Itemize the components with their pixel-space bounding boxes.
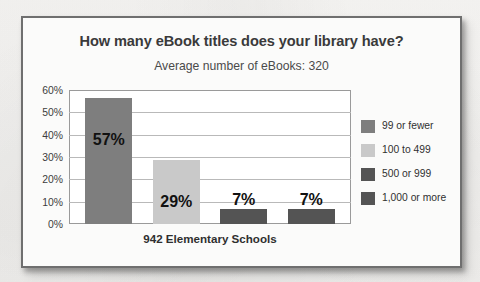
legend-swatch-icon <box>361 168 375 181</box>
y-axis-tick-label: 50% <box>42 107 63 118</box>
y-axis-tick-label: 10% <box>42 196 63 207</box>
y-axis: 60%50%40%30%20%10%0% <box>23 90 67 224</box>
legend-item[interactable]: 500 or 999 <box>361 168 461 181</box>
y-axis-tick-label: 40% <box>42 129 63 140</box>
legend-swatch-icon <box>361 192 375 205</box>
chart-subtitle: Average number of eBooks: 320 <box>23 59 460 73</box>
bar[interactable]: 29% <box>153 160 200 224</box>
chart-card: How many eBook titles does your library … <box>21 16 462 268</box>
legend-item-label: 99 or fewer <box>382 121 434 131</box>
bar-value-label: 57% <box>93 132 125 148</box>
legend-swatch-icon <box>361 144 375 157</box>
x-axis-label: 942 Elementary Schools <box>69 232 351 245</box>
legend-swatch-icon <box>361 120 375 133</box>
y-axis-tick-label: 60% <box>42 85 63 96</box>
y-axis-tick-label: 30% <box>42 152 63 163</box>
plot-area: 57%29%7%7% <box>69 90 351 224</box>
bar-value-label: 7% <box>300 192 323 208</box>
legend-item-label: 1,000 or more <box>382 193 446 203</box>
y-axis-tick-label: 20% <box>42 174 63 185</box>
bar[interactable]: 7% <box>288 209 335 224</box>
bar[interactable]: 57% <box>85 98 132 224</box>
chart-legend: 99 or fewer100 to 499500 or 9991,000 or … <box>361 120 461 216</box>
legend-item[interactable]: 100 to 499 <box>361 144 461 157</box>
bar-slot: 7% <box>210 90 278 224</box>
legend-item-label: 100 to 499 <box>382 145 431 155</box>
legend-item[interactable]: 1,000 or more <box>361 192 461 205</box>
bar-value-label: 29% <box>160 194 192 210</box>
bar-slot: 7% <box>278 90 346 224</box>
bar-slot: 57% <box>75 90 143 224</box>
bar-series: 57%29%7%7% <box>69 90 351 224</box>
bar[interactable]: 7% <box>220 209 267 224</box>
legend-item[interactable]: 99 or fewer <box>361 120 461 133</box>
y-axis-tick-label: 0% <box>48 219 63 230</box>
bar-slot: 29% <box>143 90 211 224</box>
bar-value-label: 7% <box>232 192 255 208</box>
legend-item-label: 500 or 999 <box>382 169 431 179</box>
chart-title: How many eBook titles does your library … <box>23 33 460 49</box>
